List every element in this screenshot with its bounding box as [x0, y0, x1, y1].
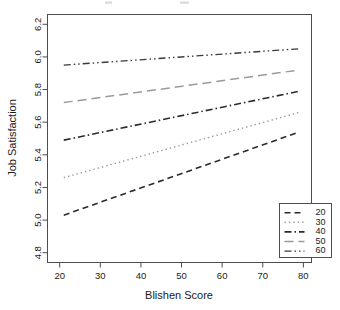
y-tick-label: 5.6 [32, 116, 43, 129]
line-chart: 4.85.05.25.45.65.86.06.2 20304050607080 … [0, 0, 340, 310]
chart-figure: 4.85.05.25.45.65.86.06.2 20304050607080 … [0, 0, 340, 310]
x-tick-label: 80 [298, 270, 309, 281]
title-artifact-mark [105, 2, 112, 4]
x-tick-label: 50 [176, 270, 187, 281]
y-tick-label: 5.8 [32, 83, 43, 96]
y-tick-label: 4.8 [32, 246, 43, 259]
x-tick-label: 30 [95, 270, 106, 281]
legend-label-50[interactable]: 50 [315, 236, 325, 246]
chart-background [0, 0, 340, 310]
chart-legend[interactable]: 2030405060 [280, 204, 332, 258]
legend-label-60[interactable]: 60 [315, 245, 325, 255]
y-tick-label: 5.2 [32, 181, 43, 194]
x-tick-label: 70 [257, 270, 268, 281]
y-tick-label: 6.0 [32, 50, 43, 63]
legend-label-30[interactable]: 30 [315, 217, 325, 227]
y-tick-label: 6.2 [32, 18, 43, 31]
x-tick-label: 40 [136, 270, 147, 281]
legend-label-40[interactable]: 40 [315, 226, 325, 236]
y-tick-label: 5.0 [32, 213, 43, 226]
x-tick-label: 60 [217, 270, 228, 281]
legend-label-20[interactable]: 20 [315, 207, 325, 217]
y-tick-label: 5.4 [32, 148, 43, 161]
y-axis-title: Job Satisfaction [6, 99, 18, 177]
title-artifact-mark [180, 2, 189, 4]
x-tick-label: 20 [54, 270, 65, 281]
x-axis-title: Blishen Score [145, 289, 213, 301]
